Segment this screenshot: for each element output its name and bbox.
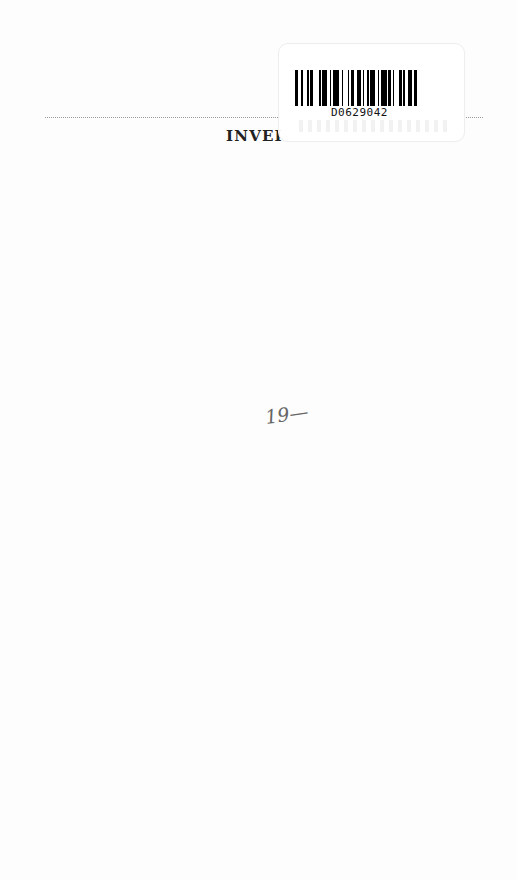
book-page: INVEI D0629042 19—	[0, 0, 517, 880]
handwritten-note: 19—	[264, 400, 310, 428]
page-title-fragment: INVEI	[226, 127, 283, 145]
dotted-rule-left	[45, 117, 280, 118]
barcode-number: D0629042	[331, 106, 388, 119]
barcode-space	[417, 70, 420, 106]
sticker-faded-text	[299, 120, 449, 132]
barcode-icon	[295, 70, 435, 106]
dotted-rule-right	[463, 117, 483, 118]
